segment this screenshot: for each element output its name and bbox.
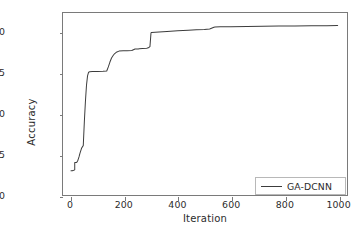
y-tick-mark: [60, 156, 64, 157]
y-tick-mark: [60, 115, 64, 116]
y-tick-label: 0.905: [0, 67, 5, 78]
x-tick-label: 600: [222, 199, 240, 210]
line-series-ga-dcnn: [71, 26, 338, 171]
legend-line-swatch: [261, 186, 282, 187]
y-tick-mark: [60, 33, 64, 34]
y-tick-label: 0.890: [0, 190, 5, 201]
y-tick-mark: [60, 197, 64, 198]
plot-area: [62, 12, 348, 196]
x-tick-label: 0: [67, 199, 73, 210]
x-tick-label: 800: [276, 199, 294, 210]
x-tick-mark: [232, 197, 233, 201]
x-tick-label: 400: [168, 199, 186, 210]
chart-figure: Accuracy Iteration 0.8900.8950.9000.9050…: [0, 0, 362, 243]
y-tick-label: 0.900: [0, 108, 5, 119]
y-axis-title: Accuracy: [26, 98, 37, 145]
x-tick-mark: [125, 197, 126, 201]
y-tick-label: 0.895: [0, 149, 5, 160]
x-tick-label: 1000: [326, 199, 350, 210]
y-tick-mark: [60, 74, 64, 75]
x-tick-mark: [178, 197, 179, 201]
x-axis-title: Iteration: [62, 213, 348, 224]
y-tick-label: 0.910: [0, 26, 5, 37]
x-tick-label: 200: [115, 199, 133, 210]
x-tick-mark: [340, 197, 341, 201]
legend-label-ga-dcnn: GA-DCNN: [287, 181, 332, 192]
chart-legend: GA-DCNN: [255, 177, 346, 195]
x-tick-mark: [286, 197, 287, 201]
x-tick-mark: [71, 197, 72, 201]
data-series-canvas: [63, 13, 347, 195]
